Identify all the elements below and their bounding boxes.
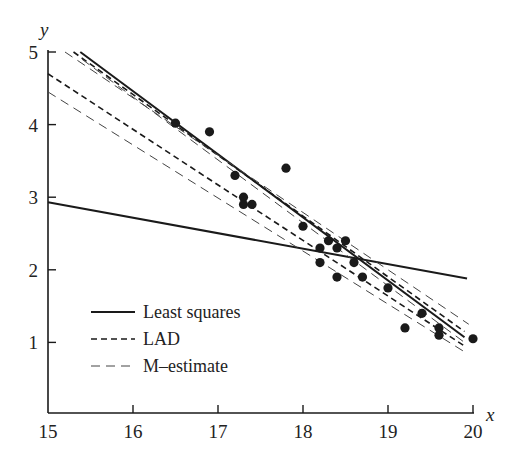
chart: 151617181920 12345 y x Least squares LAD… — [0, 0, 527, 455]
x-tick-label: 15 — [39, 421, 58, 442]
data-point — [434, 331, 443, 340]
data-point — [324, 236, 333, 245]
least-squares-line — [48, 202, 467, 278]
data-point — [247, 200, 256, 209]
data-point — [230, 171, 239, 180]
y-tick-label: 1 — [29, 332, 39, 353]
lad-line — [74, 52, 465, 332]
axes: 151617181920 12345 y x — [29, 19, 496, 442]
data-point — [383, 283, 392, 292]
data-point — [341, 236, 350, 245]
legend-item-m-estimate: M–estimate — [91, 356, 228, 376]
legend-label: Least squares — [143, 302, 240, 322]
data-point — [332, 243, 341, 252]
x-ticks: 151617181920 — [39, 405, 483, 442]
y-tick-label: 2 — [29, 260, 39, 281]
data-point — [349, 258, 358, 267]
legend-item-lad: LAD — [91, 329, 180, 349]
m-estimate-line — [65, 52, 469, 324]
data-point — [468, 334, 477, 343]
data-point — [298, 222, 307, 231]
data-point — [400, 323, 409, 332]
data-point — [239, 200, 248, 209]
x-tick-label: 17 — [209, 421, 228, 442]
y-tick-label: 5 — [29, 42, 39, 63]
data-point — [358, 272, 367, 281]
data-point — [205, 127, 214, 136]
x-axis-label: x — [485, 404, 495, 425]
x-tick-label: 18 — [294, 421, 313, 442]
x-tick-label: 19 — [379, 421, 398, 442]
y-tick-label: 4 — [29, 115, 39, 136]
data-point — [315, 243, 324, 252]
fit-lines — [48, 52, 469, 352]
m-estimate-line — [82, 59, 465, 342]
legend-item-least-squares: Least squares — [91, 302, 240, 322]
data-point — [171, 119, 180, 128]
legend-label: LAD — [143, 329, 180, 349]
y-axis-label: y — [38, 19, 49, 40]
legend: Least squares LAD M–estimate — [91, 302, 240, 376]
x-tick-label: 16 — [124, 421, 143, 442]
lad-line — [48, 74, 465, 346]
data-point — [281, 164, 290, 173]
x-tick-label: 20 — [464, 421, 483, 442]
data-point — [332, 272, 341, 281]
data-point — [315, 258, 324, 267]
data-point — [417, 309, 426, 318]
legend-label: M–estimate — [143, 356, 228, 376]
y-tick-label: 3 — [29, 187, 39, 208]
y-ticks: 12345 — [29, 42, 57, 353]
